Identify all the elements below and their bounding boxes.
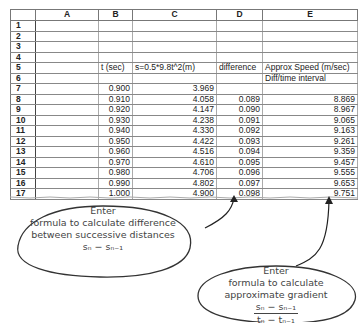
arrowhead-gradient-icon [325, 196, 333, 204]
callout-difference-line3: between successive distances [14, 229, 192, 241]
arrow-to-gradient [296, 200, 329, 266]
arrowhead-difference-icon [230, 195, 238, 202]
callout-difference: Enter formula to calculate difference be… [14, 205, 192, 253]
callout-gradient-line3: approximate gradient [196, 289, 356, 301]
fraction-denominator: tₙ − tₙ₋₁ [254, 314, 298, 326]
arrow-to-difference [205, 198, 234, 228]
callout-gradient-line2: formula to calculate [196, 277, 356, 289]
callout-gradient-line1: Enter [196, 265, 356, 277]
callout-difference-formula: sₙ − sₙ₋₁ [14, 241, 192, 253]
fraction-numerator: sₙ − sₙ₋₁ [254, 301, 298, 314]
callout-difference-line2: formula to calculate difference [14, 217, 192, 229]
gradient-fraction: sₙ − sₙ₋₁ tₙ − tₙ₋₁ [254, 301, 298, 326]
callout-difference-line1: Enter [14, 205, 192, 217]
callout-gradient: Enter formula to calculate approximate g… [196, 265, 356, 326]
